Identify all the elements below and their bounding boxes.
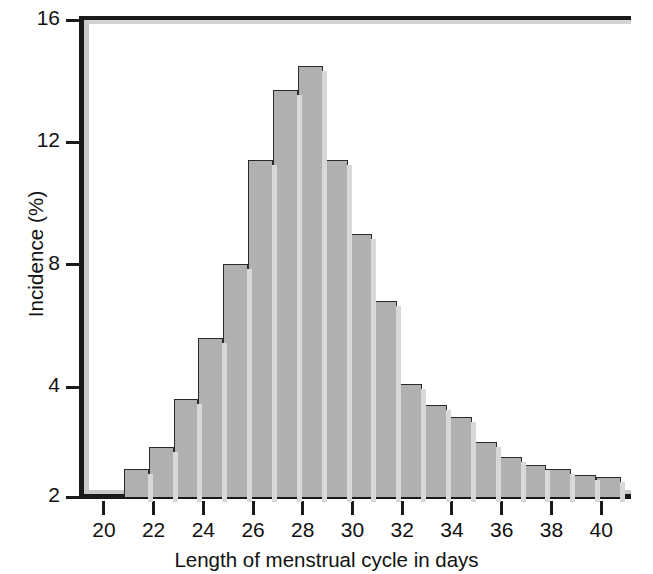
y-axis-tick [66,496,79,499]
bar-drop-shadow [521,462,526,502]
y-axis-tick [66,141,79,144]
x-axis-tick-label: 40 [576,518,626,542]
x-axis-tick [600,501,603,515]
x-axis-tick [550,501,553,515]
bar-drop-shadow [148,474,153,502]
y-axis-tick [66,263,79,266]
bars-container [84,20,631,497]
bar-drop-shadow [322,71,327,502]
y-axis-tick [66,386,79,389]
bar-drop-shadow [173,452,178,502]
x-axis-tick [202,501,205,515]
x-axis-tick [301,501,304,515]
x-axis-tick-label: 36 [477,518,527,542]
x-axis-tick-label: 34 [427,518,477,542]
x-axis-label: Length of menstrual cycle in days [0,548,653,572]
x-axis-tick-label: 38 [526,518,576,542]
y-axis-tick-label: 4 [0,373,60,397]
y-axis-tick-label: 12 [0,128,60,152]
bar-drop-shadow [446,410,451,502]
x-axis-tick [450,501,453,515]
bar-drop-shadow [272,165,277,502]
bar-drop-shadow [222,343,227,502]
x-axis-tick-label: 30 [328,518,378,542]
bar-drop-shadow [421,389,426,502]
x-axis-tick-label: 26 [228,518,278,542]
y-axis-tick-label: 2 [0,483,60,507]
x-axis-tick-label: 22 [129,518,179,542]
bar-drop-shadow [496,447,501,502]
x-axis-tick [500,501,503,515]
x-axis-tick-label: 24 [178,518,228,542]
bar-drop-shadow [247,269,252,502]
x-axis-tick-label: 20 [79,518,129,542]
x-axis-tick [401,501,404,515]
bar-drop-shadow [197,404,202,502]
x-axis-tick-label: 28 [278,518,328,542]
x-axis-tick [102,501,105,515]
bar-drop-shadow [396,306,401,502]
x-axis-tick-label: 32 [377,518,427,542]
bar-drop-shadow [545,470,550,502]
y-axis-tick-label: 16 [0,6,60,30]
bar-drop-shadow [471,422,476,502]
x-axis-tick [351,501,354,515]
y-axis-tick-label: 8 [0,251,60,275]
bar-drop-shadow [570,474,575,502]
histogram-bar [124,469,149,497]
bar-drop-shadow [347,165,352,502]
histogram-figure: Incidence (%) 2481216 202224262830323436… [0,0,653,574]
bar-drop-shadow [595,480,600,502]
bar-drop-shadow [297,95,302,502]
bar-drop-shadow [371,239,376,502]
bar-drop-shadow [620,482,625,502]
y-axis-tick [66,19,79,22]
x-axis-tick [152,501,155,515]
x-axis-tick [252,501,255,515]
